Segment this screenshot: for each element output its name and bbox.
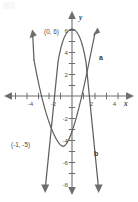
x-tick-label-pos4: 4	[113, 100, 117, 107]
x-axis-label: x	[123, 99, 128, 108]
coordinate-graph-figure: -4 -2 2 4 6 4 2 -2 -4 -6 -8 y x (0, 6) (…	[0, 0, 138, 202]
curve-a-right-arrow-icon	[93, 28, 100, 36]
curve-b-label: b	[94, 150, 98, 157]
y-tick-label-neg4: -4	[62, 137, 68, 144]
y-tick-label-2: 2	[65, 71, 69, 78]
curve-b-right-arrow-icon	[95, 185, 103, 193]
x-tick-label-neg2: -2	[51, 100, 57, 107]
x-tick-label-pos2: 2	[90, 100, 94, 107]
y-axis-up-arrow-icon	[68, 11, 76, 19]
vertex-label: (-1, -5)	[11, 141, 30, 149]
y-tick-label-neg6: -6	[62, 159, 68, 166]
y-axis-down-arrow-icon	[68, 187, 76, 195]
y-axis	[68, 11, 76, 195]
curve-b-left-arrow-icon	[41, 185, 49, 193]
y-axis-label: y	[78, 13, 83, 22]
x-axis	[4, 92, 134, 100]
y-tick-label-neg2: -2	[62, 115, 68, 122]
y-intercept-label: (0, 6)	[44, 28, 59, 36]
curve-a	[30, 28, 101, 147]
curve-a-label: a	[99, 54, 103, 61]
x-axis-left-arrow-icon	[4, 92, 12, 100]
curve-a-left-tail	[33, 37, 34, 61]
x-tick-label-neg4: -4	[28, 100, 34, 107]
y-tick-label-6: 6	[65, 27, 69, 34]
y-tick-label-4: 4	[65, 49, 69, 56]
y-tick-label-neg8: -8	[62, 181, 68, 188]
